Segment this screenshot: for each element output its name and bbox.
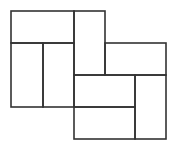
rect-left-tall-b <box>43 43 74 107</box>
rectangle-tiling-diagram <box>0 0 177 150</box>
rect-right-tall <box>135 75 166 139</box>
rect-right-top-wide <box>105 43 166 75</box>
rect-lower-wide-b <box>74 107 135 139</box>
rect-left-tall-a <box>11 43 43 107</box>
rect-top-left-wide <box>11 11 74 43</box>
rect-lower-wide-a <box>74 75 135 107</box>
rect-center-tall <box>74 11 105 75</box>
